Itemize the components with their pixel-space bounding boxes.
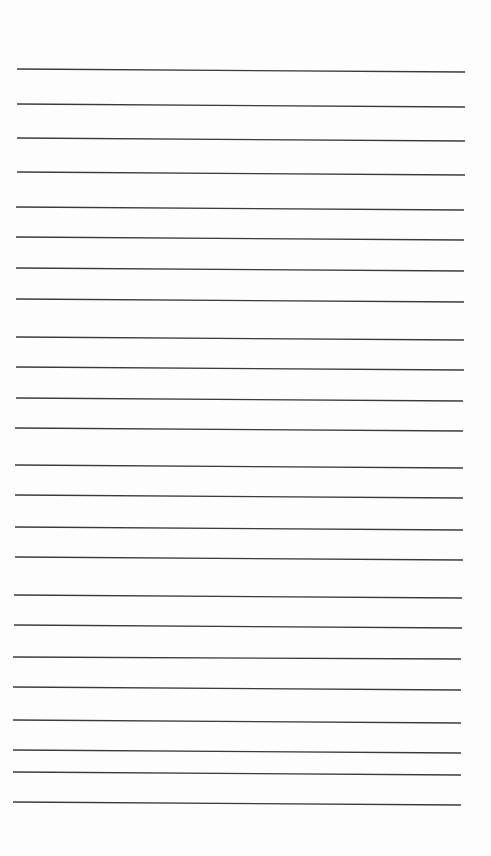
ruled-line <box>13 687 461 690</box>
ruled-line <box>17 104 465 107</box>
lined-paper-page <box>0 0 491 856</box>
ruled-line <box>16 337 464 340</box>
ruled-lines <box>0 0 491 856</box>
ruled-line <box>15 495 463 498</box>
ruled-line <box>14 595 462 598</box>
ruled-line <box>17 69 465 72</box>
ruled-line <box>15 557 463 560</box>
ruled-line <box>15 428 463 431</box>
ruled-line <box>16 237 464 240</box>
ruled-line <box>17 138 465 141</box>
ruled-line <box>13 772 461 775</box>
ruled-line <box>17 172 465 175</box>
ruled-line <box>16 268 464 271</box>
ruled-line <box>15 465 463 468</box>
ruled-line <box>16 398 463 401</box>
ruled-line <box>16 207 464 210</box>
ruled-line <box>16 367 464 370</box>
ruled-line <box>14 625 462 628</box>
ruled-line <box>13 720 461 723</box>
ruled-line <box>13 802 461 805</box>
ruled-line <box>13 750 461 753</box>
ruled-line <box>13 657 461 659</box>
ruled-line <box>15 527 463 530</box>
ruled-line <box>16 299 464 302</box>
